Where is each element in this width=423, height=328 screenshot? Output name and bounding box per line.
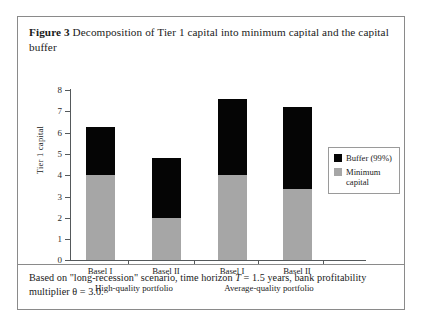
y-axis-tick-6 xyxy=(65,133,71,134)
y-axis-label-8: 8 xyxy=(40,86,62,95)
footnote-divider xyxy=(18,264,404,265)
legend-item-minimum-capital: Minimum capital xyxy=(334,167,394,188)
figure-container: Figure 3 Decomposition of Tier 1 capital… xyxy=(17,16,405,310)
y-axis-tick-5 xyxy=(65,154,71,155)
bar-high-quality-basel-i xyxy=(86,127,115,260)
chart-plot-area: Tier 1 capital 8 7 6 5 4 3 2 1 0 xyxy=(18,61,406,271)
bar-segment-minimum xyxy=(218,175,247,260)
y-axis-tick-8 xyxy=(65,90,71,91)
y-axis-tick-3 xyxy=(65,197,71,198)
legend-swatch-buffer-icon xyxy=(334,154,342,162)
bar-segment-buffer xyxy=(86,127,115,175)
figure-note-part1: Based on "long-recession" scenario, time… xyxy=(29,272,235,283)
bar-average-quality-basel-ii xyxy=(283,107,312,260)
figure-label: Figure 3 xyxy=(29,26,70,38)
y-axis-tick-7 xyxy=(65,111,71,112)
figure-title-text: Decomposition of Tier 1 capital into min… xyxy=(29,26,389,53)
bar-segment-minimum xyxy=(86,175,115,260)
legend-item-buffer: Buffer (99%) xyxy=(334,153,394,164)
y-axis-label-5: 5 xyxy=(40,150,62,159)
chart-legend: Buffer (99%) Minimum capital xyxy=(328,147,400,194)
bar-segment-minimum xyxy=(152,218,181,260)
y-axis-tick-1 xyxy=(65,239,71,240)
y-axis-label-1: 1 xyxy=(40,235,62,244)
bar-segment-buffer xyxy=(152,158,181,218)
bar-average-quality-basel-i xyxy=(218,99,247,260)
figure-title: Figure 3 Decomposition of Tier 1 capital… xyxy=(29,25,389,55)
legend-label-buffer: Buffer (99%) xyxy=(346,153,392,164)
legend-swatch-minimum-icon xyxy=(334,168,342,176)
x-axis-line xyxy=(70,260,366,261)
bar-high-quality-basel-ii xyxy=(152,158,181,260)
y-axis-label-4: 4 xyxy=(40,171,62,180)
y-axis-tick-0 xyxy=(65,260,71,261)
y-axis-label-2: 2 xyxy=(40,214,62,223)
figure-note: Based on "long-recession" scenario, time… xyxy=(29,271,393,299)
bar-segment-buffer xyxy=(283,107,312,189)
bar-segment-buffer xyxy=(218,99,247,175)
y-axis-label-7: 7 xyxy=(40,107,62,116)
legend-label-minimum-capital: Minimum capital xyxy=(346,167,394,188)
y-axis-label-3: 3 xyxy=(40,193,62,202)
y-axis-tick-2 xyxy=(65,218,71,219)
y-axis-tick-4 xyxy=(65,175,71,176)
bar-segment-minimum xyxy=(283,189,312,260)
y-axis-label-6: 6 xyxy=(40,129,62,138)
